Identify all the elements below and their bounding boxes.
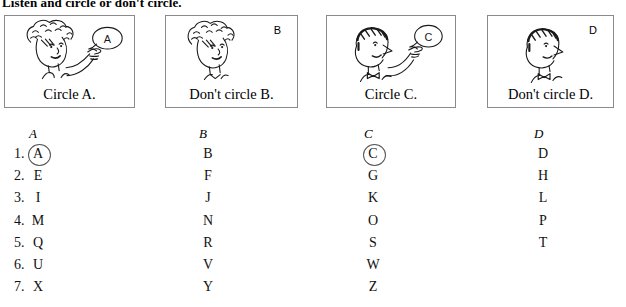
picture-box-a: A Circle A.: [4, 15, 135, 108]
row-number: 3.: [14, 190, 25, 206]
answer-letter[interactable]: G: [364, 168, 382, 184]
answer-letter[interactable]: M: [29, 213, 47, 229]
row-number: 6.: [14, 257, 25, 273]
bubble-letter-c: C: [425, 31, 433, 43]
answer-letter[interactable]: K: [364, 190, 382, 206]
answer-letter[interactable]: P: [534, 213, 552, 229]
answer-letter[interactable]: B: [199, 146, 217, 162]
column-header-b: B: [199, 126, 207, 142]
answer-letter[interactable]: A: [29, 146, 47, 162]
column-header-a: A: [29, 126, 37, 142]
row-number: 5.: [14, 235, 25, 251]
answer-letter[interactable]: L: [534, 190, 552, 206]
row-number: 2.: [14, 168, 25, 184]
picture-caption: Circle A.: [5, 86, 134, 103]
circle-mark: [363, 144, 386, 166]
row-number: 1.: [14, 146, 25, 162]
picture-caption: Don't circle D.: [488, 86, 613, 103]
bubble-letter-a: A: [104, 33, 112, 45]
answer-letter[interactable]: E: [29, 168, 47, 184]
answer-letter[interactable]: S: [364, 235, 382, 251]
answer-letter[interactable]: I: [29, 190, 47, 206]
picture-box-c: C Circle C.: [326, 15, 456, 108]
answer-letter[interactable]: D: [534, 146, 552, 162]
picture-box-b: B Don't circle B.: [165, 15, 298, 108]
picture-caption: Don't circle B.: [166, 86, 297, 103]
column-header-c: C: [364, 126, 373, 142]
answer-letter[interactable]: W: [364, 257, 382, 273]
circle-mark: [28, 144, 51, 166]
row-number: 7.: [14, 279, 25, 295]
answer-letter[interactable]: J: [199, 190, 217, 206]
answer-letter[interactable]: C: [364, 146, 382, 162]
answer-letter[interactable]: O: [364, 213, 382, 229]
corner-letter-d: D: [589, 24, 597, 36]
illustration-woman-pointing-a: A: [5, 16, 134, 84]
column-header-d: D: [534, 126, 543, 142]
row-number: 4.: [14, 213, 25, 229]
answer-letter[interactable]: V: [199, 257, 217, 273]
picture-caption: Circle C.: [327, 86, 455, 103]
page-title: Listen and circle or don't circle.: [2, 0, 182, 11]
answer-letter[interactable]: N: [199, 213, 217, 229]
answer-letter[interactable]: U: [29, 257, 47, 273]
answer-letter[interactable]: T: [534, 235, 552, 251]
illustration-man-pointing-c: C: [327, 16, 455, 84]
answer-letter[interactable]: R: [199, 235, 217, 251]
picture-box-d: D Don't circle D.: [487, 15, 614, 108]
corner-letter-b: B: [274, 24, 281, 36]
answer-letter[interactable]: Z: [364, 279, 382, 295]
answer-letter[interactable]: X: [29, 279, 47, 295]
answer-letter[interactable]: H: [534, 168, 552, 184]
answer-grid: A B C D 1.ABCD2.EFGH3.IJKL4.MNOP5.QRST6.…: [0, 126, 626, 307]
answer-letter[interactable]: Y: [199, 279, 217, 295]
answer-letter[interactable]: Q: [29, 235, 47, 251]
answer-letter[interactable]: F: [199, 168, 217, 184]
